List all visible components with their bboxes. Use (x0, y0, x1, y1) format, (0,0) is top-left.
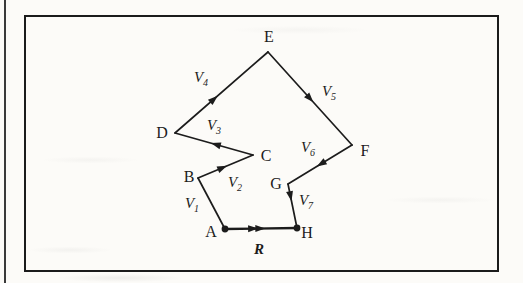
point-label-H: H (301, 224, 313, 241)
vector-label-V2: V2 (228, 174, 242, 193)
point-label-B: B (184, 168, 195, 185)
arrowhead-V3 (211, 142, 222, 149)
point-label-E: E (264, 28, 274, 45)
point-label-A: A (205, 223, 217, 240)
vector-label-V5: V5 (322, 83, 336, 102)
edge-V4-line (175, 52, 268, 133)
point-dot-A (222, 226, 229, 233)
vector-label-V7: V7 (299, 192, 314, 211)
point-label-G: G (270, 175, 282, 192)
point-dot-H (294, 225, 301, 232)
vector-label-R: R (253, 241, 264, 257)
arrowhead-V2 (217, 166, 228, 173)
point-label-F: F (361, 142, 370, 159)
arrowhead-R-2 (255, 225, 265, 232)
vector-label-V3: V3 (207, 117, 221, 136)
vector-label-V1: V1 (185, 195, 199, 214)
edge-V7-line (288, 184, 297, 228)
point-label-C: C (261, 147, 272, 164)
vector-label-V4: V4 (194, 69, 208, 88)
point-label-D: D (156, 124, 168, 141)
arrowhead-V6 (317, 158, 327, 166)
vector-label-V6: V6 (301, 139, 315, 158)
vector-diagram: V1V2V3V4V5V6V7RABCDEFGH (0, 0, 523, 283)
edge-V1-line (198, 178, 225, 229)
